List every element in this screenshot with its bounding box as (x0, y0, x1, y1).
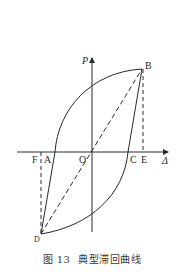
point-label-c: C (130, 155, 137, 165)
y-axis-label: P (82, 56, 88, 66)
caption-title: 典型滞回曲线 (78, 254, 141, 265)
diagram-canvas (0, 0, 184, 278)
point-label-o: O (79, 155, 86, 165)
figure-caption: 图 13典型滞回曲线 (0, 251, 184, 266)
point-label-a: A (44, 155, 51, 165)
point-label-f: F (32, 155, 38, 165)
point-label-b: B (145, 61, 152, 71)
point-label-e: E (141, 155, 147, 165)
caption-number: 图 13 (43, 254, 71, 265)
hysteresis-diagram: P B F A O C E Δ D 图 13典型滞回曲线 (0, 0, 184, 278)
point-label-d: D (34, 236, 40, 244)
x-axis-label: Δ (162, 156, 168, 166)
unloading-line-bc (128, 69, 142, 152)
upper-loop-curve (55, 69, 142, 152)
